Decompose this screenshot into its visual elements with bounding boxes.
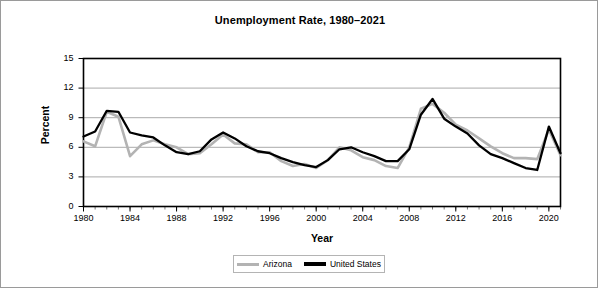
x-tick-label: 2012 [439,213,473,223]
x-tick-label: 2000 [299,213,333,223]
x-tick-label: 1992 [206,213,240,223]
plot-area [1,1,598,288]
x-tick-label: 2016 [485,213,519,223]
series-lines [84,99,561,170]
legend-label-united-states: United States [330,259,381,269]
y-tick-label: 9 [56,112,74,122]
x-tick-label: 2020 [532,213,566,223]
y-tick-label: 15 [56,53,74,63]
chart-figure: Unemployment Rate, 1980–2021 03691215 19… [0,0,598,288]
x-tick-label: 1988 [160,213,194,223]
y-tick-label: 3 [56,171,74,181]
x-axis-title: Year [83,232,561,244]
plot-frame [84,59,561,207]
chart-legend: Arizona United States [233,255,385,273]
x-tick-label: 1984 [113,213,147,223]
x-tick-label: 1980 [67,213,101,223]
legend-swatch-arizona [237,263,259,266]
legend-label-arizona: Arizona [263,259,292,269]
y-tick-label: 6 [56,141,74,151]
x-tick-label: 1996 [253,213,287,223]
x-tick-label: 2004 [346,213,380,223]
y-tick-label: 0 [56,201,74,211]
x-tick-label: 2008 [392,213,426,223]
legend-item-united-states: United States [304,259,381,269]
legend-swatch-united-states [304,262,326,266]
legend-item-arizona: Arizona [237,259,292,269]
axis-major-ticks [79,59,549,212]
y-axis-title: Percent [39,75,51,175]
y-tick-label: 12 [56,82,74,92]
